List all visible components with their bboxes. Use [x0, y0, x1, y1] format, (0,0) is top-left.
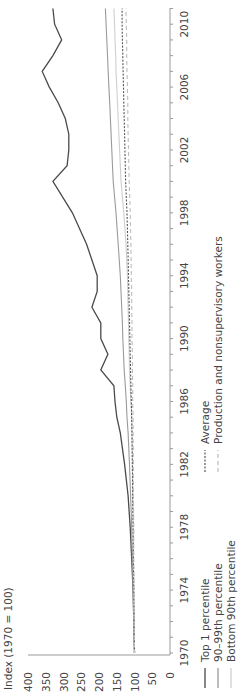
- value-tick-label: 150: [111, 672, 123, 692]
- year-tick-label: 2002: [178, 137, 190, 164]
- rotated-line-chart: 400350300250200150100500 197019741978198…: [0, 0, 248, 693]
- legend-label: 90–99th percentile: [212, 563, 224, 662]
- year-ticks: 1970197419781982198619901994199820022006…: [170, 8, 190, 666]
- year-tick-label: 1982: [178, 451, 190, 478]
- legend: Top 1 percentile90–99th percentileBottom…: [199, 236, 237, 688]
- value-tick-label: 0: [164, 672, 176, 679]
- year-tick-label: 2006: [178, 73, 190, 100]
- series-top-1-percentile: [42, 9, 134, 654]
- year-tick-label: 1994: [178, 262, 190, 289]
- value-tick-label: 250: [75, 672, 87, 692]
- legend-label: Average: [199, 401, 211, 444]
- value-tick-labels: 400350300250200150100500: [22, 672, 176, 692]
- year-tick-label: 1970: [178, 640, 190, 667]
- value-tick-label: 300: [58, 672, 70, 692]
- value-tick-label: 100: [129, 672, 141, 692]
- year-tick-label: 2010: [178, 11, 190, 38]
- legend-label: Bottom 90th percentile: [225, 540, 237, 662]
- year-tick-label: 1978: [178, 514, 190, 541]
- year-tick-label: 1998: [178, 199, 190, 226]
- legend-label: Top 1 percentile: [199, 578, 211, 663]
- year-tick-label: 1974: [178, 576, 190, 603]
- value-tick-label: 400: [22, 672, 34, 692]
- series-lines: [42, 9, 134, 654]
- year-tick-label: 1986: [178, 388, 190, 415]
- value-tick-label: 200: [93, 672, 105, 692]
- value-tick-label: 350: [40, 672, 52, 692]
- legend-label: Production and nonsupervisory workers: [212, 236, 224, 444]
- value-axis-label: Index (1970 = 100): [2, 587, 14, 690]
- year-tick-label: 1990: [178, 325, 190, 352]
- value-tick-label: 50: [146, 672, 158, 685]
